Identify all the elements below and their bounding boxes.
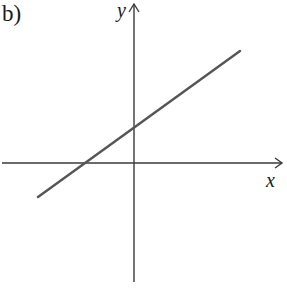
function-line (38, 51, 240, 197)
coordinate-plane (0, 0, 287, 291)
